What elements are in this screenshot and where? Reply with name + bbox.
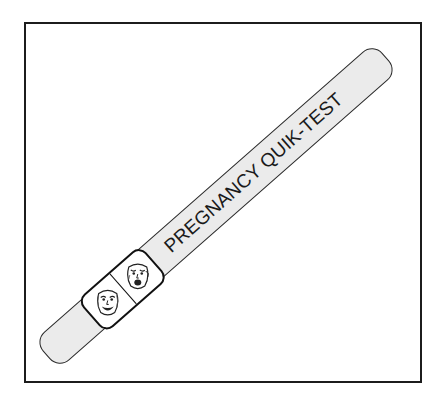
happy-face-icon [95,288,121,318]
sad-face-icon [125,261,151,291]
